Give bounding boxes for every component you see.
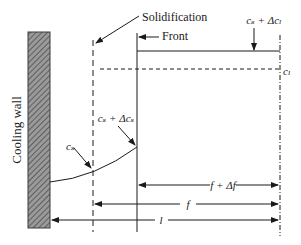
cs-arrow [74, 148, 91, 168]
cs-plus-dcl-label: cₛ + Δcₗ [246, 14, 282, 26]
solidification-arrow [96, 16, 139, 43]
solidification-diagram: Cooling wall Solidification Front cₛ + Δ… [0, 0, 301, 245]
f-plus-df-label: f + Δf [210, 179, 237, 191]
f-plus-df-dimension: f + Δf [139, 179, 278, 191]
l-dimension: l [52, 214, 278, 226]
cooling-wall-label: Cooling wall [9, 96, 24, 164]
cs-label: cₛ [66, 140, 75, 152]
front-label: Front [162, 29, 189, 43]
solidification-label: Solidification [142, 10, 207, 24]
cs-plus-dcs-label: cₛ + Δcₛ [98, 112, 135, 124]
f-label: f [186, 198, 191, 210]
cl-label: cₗ [283, 65, 291, 77]
f-dimension: f [95, 198, 278, 210]
l-label: l [159, 214, 162, 226]
cooling-wall [28, 32, 50, 228]
cs-plus-dcs-arrow [118, 126, 135, 145]
